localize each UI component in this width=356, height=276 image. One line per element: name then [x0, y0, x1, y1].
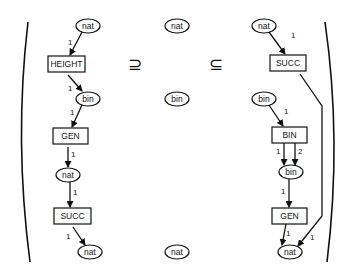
arc-weight: 1 [70, 108, 75, 117]
place-label: bin [285, 167, 297, 177]
place-label: nat [258, 21, 270, 31]
place-label: bin [171, 94, 183, 104]
middle-net: nat bin nat [165, 19, 189, 259]
transition-label: BIN [282, 130, 296, 140]
transition-label: GEN [61, 131, 79, 141]
arc-weight: 1 [68, 38, 73, 47]
transition-label: HEIGHT [50, 59, 82, 69]
left-net: nat 1 HEIGHT 1 bin 1 GEN 1 nat 1 SUCC 1 … [48, 19, 102, 259]
place-label: bin [258, 94, 270, 104]
superset-equal-symbol: ⊇ [128, 54, 142, 74]
left-parenthesis [21, 22, 30, 262]
right-parenthesis [325, 22, 334, 262]
arc-weight: 1 [66, 232, 71, 241]
transition-label: SUCC [276, 58, 300, 68]
arc-weight: 1 [71, 150, 76, 159]
place-label: nat [171, 247, 183, 257]
arc-weight: 1 [284, 107, 289, 116]
subset-equal-symbol: ⊆ [209, 54, 223, 74]
transition-label: GEN [280, 211, 298, 221]
arc-weight: 1 [286, 229, 291, 238]
place-label: nat [82, 21, 94, 31]
arc-weight: 1 [281, 187, 286, 196]
arc-weight: 1 [291, 31, 296, 40]
arc-weight: 1 [310, 233, 315, 242]
transition-label: SUCC [60, 211, 84, 221]
arc-weight: 2 [298, 147, 303, 156]
place-label: bin [82, 94, 94, 104]
place-label: nat [62, 170, 74, 180]
petri-net-diagram: ⊇ ⊆ nat 1 HEIGHT 1 bin 1 GEN 1 nat 1 SUC… [0, 0, 356, 276]
arc-weight: 1 [68, 84, 73, 93]
place-label: nat [284, 247, 296, 257]
arc-weight: 1 [73, 188, 78, 197]
place-label: nat [171, 21, 183, 31]
arc-weight: 1 [276, 147, 281, 156]
right-net: nat 1 SUCC 1 bin 1 BIN 1 2 bin 1 GEN 1 n… [252, 19, 322, 259]
place-label: nat [84, 247, 96, 257]
